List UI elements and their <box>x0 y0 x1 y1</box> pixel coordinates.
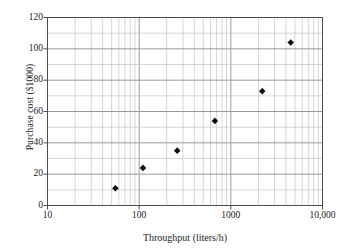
y-axis-tick-label: 120 <box>3 13 43 23</box>
x-axis-title: Throughput (liters/h) <box>47 232 323 243</box>
x-axis-tick-label: 1000 <box>221 211 240 221</box>
y-axis-tick-label: 20 <box>3 169 43 179</box>
y-axis-title: Purchase cost ($1000) <box>25 17 35 197</box>
chart-figure: 020406080100120 10100100010,000 Purchase… <box>0 0 344 252</box>
x-axis-tick-label: 10,000 <box>309 211 335 221</box>
data-point <box>112 185 119 192</box>
y-axis-tick-label: 0 <box>3 201 43 211</box>
data-point <box>140 165 147 172</box>
y-axis-tick-label: 100 <box>3 44 43 54</box>
x-axis-tick-labels: 10100100010,000 <box>0 211 344 227</box>
data-point <box>287 39 294 46</box>
x-axis-tick-label: 100 <box>132 211 146 221</box>
data-point <box>212 118 219 125</box>
y-axis-tick-label: 40 <box>3 138 43 148</box>
y-major-gridlines <box>48 49 323 174</box>
data-point <box>174 147 181 154</box>
y-axis-tick-label: 60 <box>3 107 43 117</box>
x-axis-tick-label: 10 <box>43 211 53 221</box>
data-point <box>259 88 266 95</box>
y-axis-tick-label: 80 <box>3 75 43 85</box>
